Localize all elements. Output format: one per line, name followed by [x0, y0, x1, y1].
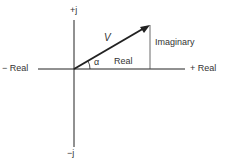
- neg-imag-label: −j: [67, 149, 74, 158]
- phasor-diagram: [0, 0, 228, 159]
- real-component-label: Real: [114, 57, 133, 66]
- angle-label: α: [94, 58, 99, 67]
- pos-imag-label: +j: [70, 6, 77, 15]
- angle-arc: [88, 61, 90, 69]
- vector-arrowhead-icon: [140, 25, 150, 33]
- vector-label: V: [104, 33, 111, 43]
- imaginary-component-label: Imaginary: [155, 38, 195, 47]
- neg-real-label: − Real: [2, 64, 28, 73]
- pos-real-label: + Real: [190, 64, 216, 73]
